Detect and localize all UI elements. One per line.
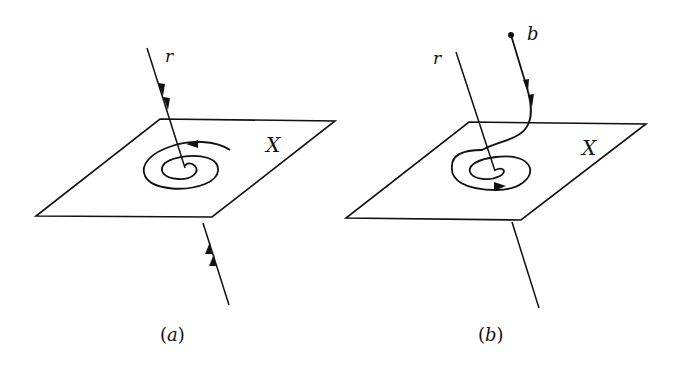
- caption-b: (b): [478, 324, 504, 345]
- label-b: b: [527, 23, 539, 44]
- plane-x-b: [346, 122, 646, 220]
- plane-x-a: [36, 119, 335, 217]
- arrow-icon: [205, 242, 212, 254]
- path-b-spiral: [452, 35, 531, 190]
- arrow-icon: [209, 254, 216, 266]
- label-x-a: X: [264, 133, 281, 157]
- label-r-b: r: [433, 48, 442, 68]
- line-r-lower-b: [512, 222, 539, 308]
- diagram-canvas: r X (a) r b X (b): [0, 0, 676, 367]
- panel-a: r X (a): [36, 46, 335, 345]
- line-r-lower-a: [203, 223, 229, 305]
- caption-a: (a): [160, 324, 185, 345]
- label-r-a: r: [165, 46, 174, 66]
- arrow-icon: [523, 79, 529, 92]
- spiral-a: [144, 142, 230, 189]
- line-r-upper-a: [147, 48, 185, 168]
- label-x-b: X: [580, 136, 597, 160]
- panel-b: r b X (b): [346, 23, 646, 345]
